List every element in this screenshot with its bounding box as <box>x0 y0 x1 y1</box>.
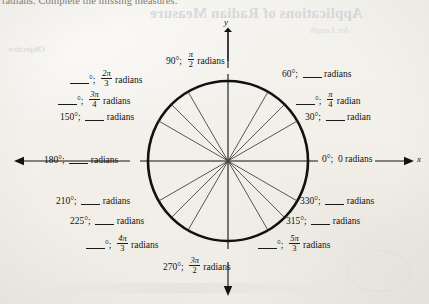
label-90-degrees: 90°; π2 radians <box>166 50 225 68</box>
deg-135-unit: radians <box>103 96 130 106</box>
deg-30-value: 30° <box>305 112 318 122</box>
y-axis-down-arrowhead <box>224 286 232 296</box>
deg-180-unit: radians <box>91 155 118 165</box>
deg-150-unit: radians <box>107 112 134 122</box>
deg-330-blank[interactable] <box>325 196 344 205</box>
deg-240-fraction: 4π3 <box>117 234 128 252</box>
deg-45-unit: radian <box>337 96 361 106</box>
deg-240-semicolon: ; <box>109 240 112 250</box>
label-150-degrees: 150°; radians <box>60 112 134 123</box>
spoke-225 <box>171 161 228 218</box>
x-axis-right-arrowhead <box>404 157 414 165</box>
deg-315-value: 315° <box>286 216 304 226</box>
deg-45-fraction: π4 <box>327 90 333 108</box>
label-135-degrees: °; 3π4 radians <box>58 90 131 108</box>
x-axis-left-arrowhead <box>14 157 24 165</box>
deg-90-unit: radians <box>197 56 224 66</box>
spoke-30 <box>228 121 297 161</box>
deg-210-value: 210° <box>56 196 74 206</box>
label-210-degrees: 210°; radians <box>56 196 130 207</box>
label-300-degrees: °; 5π3 radians <box>258 234 331 252</box>
deg-60-semicolon: ; <box>295 69 298 79</box>
deg-180-value: 180° <box>44 155 62 165</box>
deg-315-semicolon: ; <box>304 216 307 226</box>
label-330-degrees: 330°; radians <box>300 196 374 207</box>
spoke-300 <box>228 161 268 230</box>
deg-0-semicolon: ; <box>331 154 334 164</box>
y-axis-label: y <box>224 18 228 27</box>
label-0-degrees: 0°; 0 radians <box>322 155 373 165</box>
deg-300-blank[interactable] <box>258 240 277 249</box>
deg-30-unit: radian <box>347 112 371 122</box>
deg-210-unit: radians <box>103 196 130 206</box>
deg-330-unit: radians <box>347 196 374 206</box>
deg-225-blank[interactable] <box>95 216 114 225</box>
spoke-150 <box>159 121 228 161</box>
deg-135-semicolon: ; <box>81 96 84 106</box>
deg-90-fraction: π2 <box>188 50 194 68</box>
label-180-degrees: 180°; radians <box>44 155 118 166</box>
deg-210-blank[interactable] <box>81 196 100 205</box>
label-120-degrees: °; 2π3 radians <box>70 69 143 87</box>
label-45-degrees: °; π4 radian <box>296 90 361 108</box>
deg-180-blank[interactable] <box>69 155 88 164</box>
label-315-degrees: 315°; radians <box>286 216 360 227</box>
deg-150-blank[interactable] <box>85 112 104 121</box>
deg-180-semicolon: ; <box>62 155 65 165</box>
label-225-degrees: 225°; radians <box>70 216 144 227</box>
spoke-240 <box>188 161 228 230</box>
deg-210-semicolon: ; <box>74 196 77 206</box>
deg-120-fraction: 2π3 <box>101 69 112 87</box>
deg-315-unit: radians <box>333 216 360 226</box>
deg-60-blank[interactable] <box>303 69 322 78</box>
deg-270-semicolon: ; <box>181 262 184 272</box>
deg-0-value: 0° <box>322 154 331 164</box>
spoke-135 <box>171 104 228 161</box>
deg-240-blank[interactable] <box>86 240 105 249</box>
label-240-degrees: °; 4π3 radians <box>86 234 159 252</box>
deg-300-unit: radians <box>303 240 330 250</box>
deg-60-unit: radians <box>324 69 351 79</box>
spoke-210 <box>159 161 228 201</box>
deg-0-radians: 0 radians <box>338 154 373 164</box>
deg-225-unit: radians <box>117 216 144 226</box>
deg-150-semicolon: ; <box>78 112 81 122</box>
deg-300-fraction: 5π3 <box>289 234 300 252</box>
deg-30-semicolon: ; <box>318 112 321 122</box>
deg-135-blank[interactable] <box>58 96 77 105</box>
deg-300-semicolon: ; <box>281 240 284 250</box>
spoke-60 <box>228 92 268 161</box>
deg-240-unit: radians <box>131 240 158 250</box>
deg-90-semicolon: ; <box>179 56 182 66</box>
deg-330-value: 330° <box>300 196 318 206</box>
deg-45-semicolon: ; <box>319 96 322 106</box>
spoke-120 <box>188 92 228 161</box>
deg-120-blank[interactable] <box>70 75 89 84</box>
x-axis-label: x <box>417 155 421 164</box>
deg-135-fraction: 3π4 <box>89 90 100 108</box>
deg-150-value: 150° <box>60 112 78 122</box>
label-30-degrees: 30°; radian <box>305 112 371 123</box>
deg-315-blank[interactable] <box>311 216 330 225</box>
deg-225-value: 225° <box>70 216 88 226</box>
spoke-45 <box>228 104 285 161</box>
deg-60-value: 60° <box>282 69 295 79</box>
spoke-330 <box>228 161 297 201</box>
deg-45-blank[interactable] <box>296 96 315 105</box>
label-60-degrees: 60°; radians <box>282 69 352 80</box>
deg-120-semicolon: ; <box>93 75 96 85</box>
deg-330-semicolon: ; <box>318 196 321 206</box>
deg-270-value: 270° <box>163 262 181 272</box>
deg-270-unit: radians <box>203 262 230 272</box>
deg-120-unit: radians <box>115 75 142 85</box>
deg-270-fraction: 3π2 <box>189 256 200 274</box>
label-270-degrees: 270°; 3π2 radians <box>163 256 231 274</box>
spoke-315 <box>228 161 285 218</box>
deg-90-value: 90° <box>166 56 179 66</box>
deg-225-semicolon: ; <box>88 216 91 226</box>
deg-30-blank[interactable] <box>326 112 345 121</box>
